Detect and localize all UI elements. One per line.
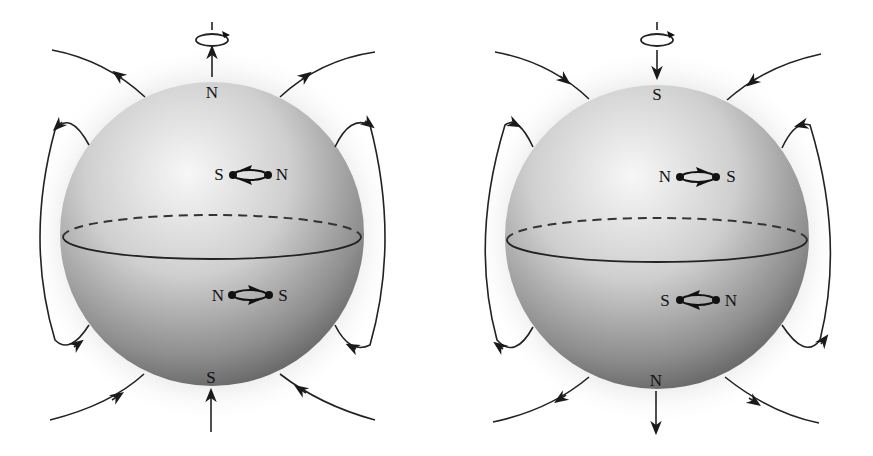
bottom-pole-label: N [650, 371, 662, 390]
dipole-right-label: N [725, 291, 737, 310]
top-pole-label: S [652, 85, 661, 104]
right-panel: S N N S S N [472, 22, 842, 428]
sphere [60, 82, 364, 386]
dipole-right-label: N [276, 165, 288, 184]
rotation-arrow-icon [196, 22, 230, 46]
field-line-arrow-icon [801, 124, 805, 125]
rotation-arrow-icon [641, 22, 675, 46]
dipole-left-label: N [659, 167, 671, 186]
dipole-left-label: S [214, 165, 223, 184]
dipole-right-label: S [278, 286, 287, 305]
dipole-left-label: S [660, 291, 669, 310]
dipole-right-label: S [726, 167, 735, 186]
field-line-arrow-icon [821, 340, 824, 344]
left-panel: N S S N N S [27, 22, 397, 432]
top-pole-label: N [206, 83, 218, 102]
field-line-arrow-icon [499, 346, 503, 349]
sphere [505, 85, 809, 389]
bottom-pole-label: S [206, 368, 215, 387]
dipole-left-label: N [212, 286, 224, 305]
magnetic-sphere-diagram: N S S N N S [0, 0, 873, 456]
